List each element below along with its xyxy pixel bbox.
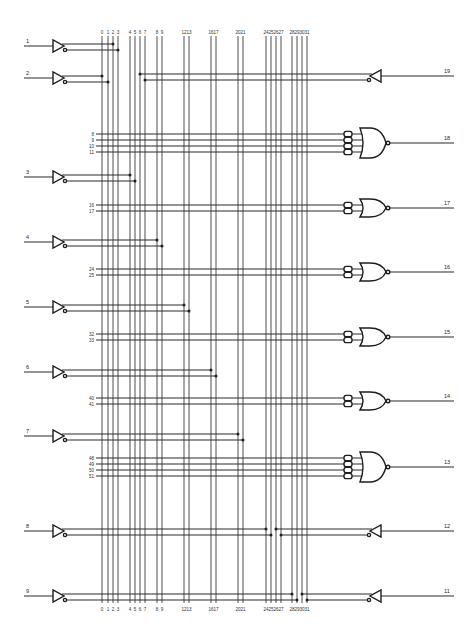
output-pin-label: 18	[444, 135, 450, 141]
inverter-bubble-icon	[386, 206, 390, 210]
input-pin-label: 5	[26, 299, 29, 305]
inverter-bubble-icon	[367, 78, 370, 81]
column-label-top: 5	[134, 30, 137, 35]
product-term-label: 48	[89, 456, 95, 461]
buffer-triangle-icon	[53, 366, 64, 378]
junction-dot	[265, 528, 268, 531]
product-term-label: 9	[91, 138, 94, 143]
input-pin-label: 7	[26, 428, 29, 434]
junction-dot	[156, 239, 159, 242]
or-gate-icon	[360, 392, 386, 410]
junction-dot	[306, 599, 309, 602]
output-pin-label: 16	[444, 264, 450, 270]
buffer-triangle-icon	[53, 525, 64, 537]
junction-dot	[210, 369, 213, 372]
output-pin-label: 11	[444, 588, 450, 594]
inverter-bubble-icon	[63, 48, 66, 51]
output-pin-label: 12	[444, 523, 450, 529]
buffer-triangle-icon	[53, 171, 64, 183]
output-pin-label: 17	[444, 200, 450, 206]
product-term-label: 40	[89, 396, 95, 401]
inverter-bubble-icon	[386, 270, 390, 274]
input-buffer: 4	[24, 234, 164, 248]
column-label-bottom: 21	[240, 607, 246, 612]
junction-dot	[280, 534, 283, 537]
column-label-bottom: 3	[117, 607, 120, 612]
column-label-top: 27	[278, 30, 284, 35]
and-gate-icon	[344, 143, 352, 148]
buffer-triangle-icon	[370, 70, 381, 82]
product-term-label: 16	[89, 203, 95, 208]
column-label-bottom: 5	[134, 607, 137, 612]
input-buffer: 5	[24, 299, 191, 313]
and-gate-icon	[344, 149, 352, 154]
column-label-bottom: 13	[186, 607, 192, 612]
product-term-label: 51	[89, 474, 95, 479]
feedback-buffer: 11	[301, 588, 455, 602]
feedback-buffer: 19	[139, 68, 455, 82]
column-label-top: 3	[117, 30, 120, 35]
and-gate-icon	[344, 272, 352, 277]
column-label-bottom: 9	[161, 607, 164, 612]
junction-dot	[270, 534, 273, 537]
column-label-bottom: 31	[304, 607, 310, 612]
inverter-bubble-icon	[367, 533, 370, 536]
input-pin-label: 9	[26, 588, 29, 594]
product-term-label: 8	[91, 132, 94, 137]
product-term-label: 11	[89, 150, 94, 155]
column-label-bottom: 6	[139, 607, 142, 612]
junction-dot	[129, 174, 132, 177]
input-pin-label: 2	[26, 70, 29, 76]
buffer-triangle-icon	[53, 236, 64, 248]
or-gate-icon	[360, 452, 386, 482]
product-term-label: 24	[89, 267, 95, 272]
junction-dot	[139, 73, 142, 76]
and-gate-icon	[344, 395, 352, 400]
input-buffer: 8	[24, 523, 273, 537]
input-columns: 0011223344556677889912121313161617172020…	[101, 30, 310, 612]
inverter-bubble-icon	[367, 598, 370, 601]
inverter-bubble-icon	[63, 598, 66, 601]
column-label-top: 31	[304, 30, 310, 35]
column-label-bottom: 27	[278, 607, 284, 612]
product-term-label: 49	[89, 462, 95, 467]
column-label-top: 7	[144, 30, 147, 35]
junction-dot	[301, 593, 304, 596]
buffer-triangle-icon	[53, 301, 64, 313]
input-buffer: 3	[24, 169, 137, 183]
feedback-buffers: 191211	[139, 68, 455, 602]
buffer-triangle-icon	[53, 72, 64, 84]
column-label-bottom: 8	[156, 607, 159, 612]
column-label-top: 21	[240, 30, 246, 35]
inverter-bubble-icon	[386, 465, 390, 469]
product-term-label: 25	[89, 273, 95, 278]
inverter-bubble-icon	[63, 309, 66, 312]
input-buffer: 1	[24, 38, 120, 52]
and-gate-icon	[344, 401, 352, 406]
output-pin-label: 14	[444, 393, 450, 399]
and-gate-icon	[344, 455, 352, 460]
product-term-label: 32	[89, 332, 95, 337]
or-gate-icon	[360, 328, 386, 346]
column-label-top: 2	[112, 30, 115, 35]
junction-dot	[117, 49, 120, 52]
and-gate-icon	[344, 337, 352, 342]
input-buffers: 123456789	[24, 38, 299, 602]
and-gate-icon	[344, 202, 352, 207]
and-gate-icon	[344, 137, 352, 142]
input-pin-label: 6	[26, 364, 29, 370]
inverter-bubble-icon	[386, 335, 390, 339]
buffer-triangle-icon	[370, 525, 381, 537]
junction-dot	[275, 528, 278, 531]
junction-dot	[161, 245, 164, 248]
inverter-bubble-icon	[63, 244, 66, 247]
and-gate-icon	[344, 331, 352, 336]
junction-dot	[242, 439, 245, 442]
input-buffer: 6	[24, 364, 218, 378]
column-label-bottom: 7	[144, 607, 147, 612]
column-label-top: 6	[139, 30, 142, 35]
column-label-top: 1	[107, 30, 110, 35]
column-label-bottom: 4	[129, 607, 132, 612]
or-gate-icon	[360, 199, 386, 217]
column-label-top: 9	[161, 30, 164, 35]
